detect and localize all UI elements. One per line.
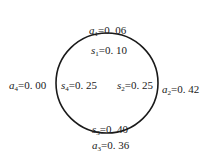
label-s2: s2=0. 25 — [117, 79, 153, 95]
value-s4: =0. 25 — [69, 79, 97, 91]
label-a3: a3=0. 36 — [92, 139, 129, 155]
label-a1: a1=0. 06 — [89, 24, 126, 40]
label-a4: a4=0. 00 — [9, 79, 46, 95]
value-a2: =0. 42 — [171, 83, 199, 95]
label-s4: s4=0. 25 — [61, 79, 97, 95]
value-s1: =0. 10 — [99, 44, 127, 56]
value-s3: =0. 40 — [100, 123, 128, 135]
value-a3: =0. 36 — [101, 139, 129, 151]
value-a4: =0. 00 — [18, 79, 46, 91]
label-a2: a2=0. 42 — [162, 83, 199, 99]
label-s3: s3=0. 40 — [92, 123, 128, 139]
label-s1: s1=0. 10 — [91, 44, 127, 60]
value-a1: =0. 06 — [98, 24, 126, 36]
value-s2: =0. 25 — [125, 79, 153, 91]
